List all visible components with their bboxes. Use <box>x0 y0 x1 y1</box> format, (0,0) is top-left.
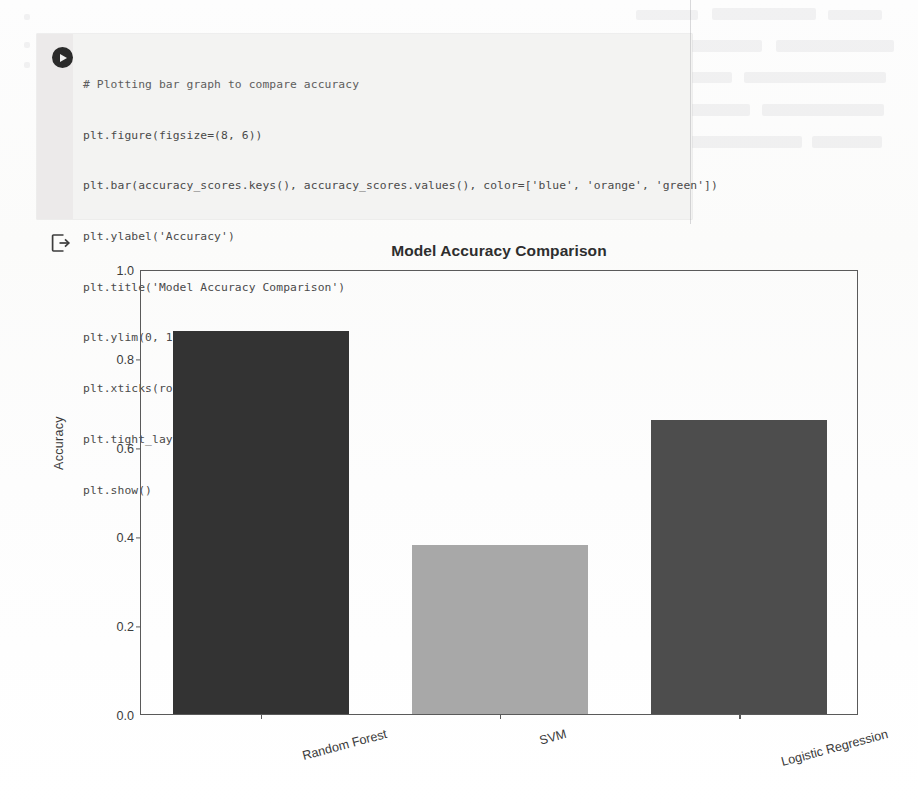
output-export-icon[interactable] <box>51 233 71 253</box>
bar-series <box>141 271 857 714</box>
y-tick-label: 0.4 <box>116 531 134 545</box>
bar <box>173 331 349 714</box>
code-line: plt.figure(figsize=(8, 6)) <box>83 128 918 145</box>
x-tick-mark <box>261 714 262 719</box>
bar <box>651 420 827 714</box>
plot-axes: 1.00.80.60.40.20.0 <box>140 270 858 715</box>
y-tick-label: 0.0 <box>116 709 134 723</box>
code-line: # Plotting bar graph to compare accuracy <box>83 77 918 94</box>
y-tick-mark <box>136 359 141 360</box>
code-line: plt.bar(accuracy_scores.keys(), accuracy… <box>83 178 918 195</box>
bar <box>412 545 588 714</box>
y-tick-mark <box>136 537 141 538</box>
chart-title: Model Accuracy Comparison <box>140 242 858 260</box>
play-triangle-glyph <box>60 54 67 62</box>
x-tick-mark <box>500 714 501 719</box>
x-tick-mark <box>739 714 740 719</box>
y-tick-label: 0.2 <box>116 620 134 634</box>
y-tick-mark <box>136 626 141 627</box>
y-tick-label: 0.8 <box>116 353 134 367</box>
play-circle-icon[interactable] <box>52 47 73 68</box>
y-tick-label: 1.0 <box>116 264 134 278</box>
y-tick-mark <box>136 448 141 449</box>
y-tick-label: 0.6 <box>116 442 134 456</box>
y-axis-label: Accuracy <box>52 416 66 470</box>
